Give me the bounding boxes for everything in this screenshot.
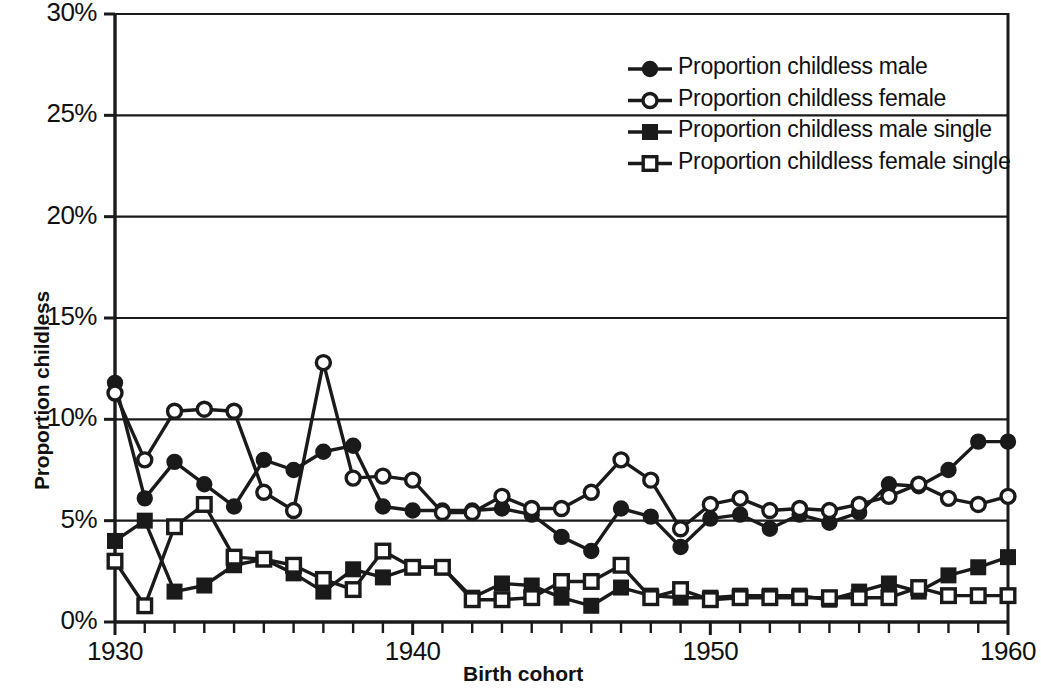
marker-open-circle — [971, 497, 985, 511]
marker-open-circle — [108, 386, 122, 400]
marker-open-square — [287, 558, 301, 572]
marker-open-circle — [882, 489, 896, 503]
marker-open-square — [852, 591, 866, 605]
marker-open-circle — [525, 502, 539, 516]
marker-open-circle — [763, 504, 777, 518]
marker-open-circle — [406, 473, 420, 487]
marker-open-square — [793, 591, 807, 605]
marker-filled-square — [971, 560, 985, 574]
marker-filled-circle — [376, 499, 390, 513]
marker-open-square — [346, 583, 360, 597]
series-lines-group — [115, 363, 1008, 606]
marker-filled-square — [197, 579, 211, 593]
marker-filled-square — [108, 534, 122, 548]
marker-filled-circle — [197, 477, 211, 491]
marker-open-circle — [495, 489, 509, 503]
marker-filled-circle — [614, 501, 628, 515]
marker-open-circle — [1001, 489, 1015, 503]
marker-open-circle — [197, 402, 211, 416]
marker-open-square — [644, 591, 658, 605]
marker-open-square — [704, 593, 718, 607]
marker-filled-circle — [644, 509, 658, 523]
marker-open-circle — [674, 522, 688, 536]
marker-filled-square — [495, 576, 509, 590]
marker-open-square — [465, 593, 479, 607]
y-axis-title: Proportion childless — [30, 291, 54, 490]
marker-filled-circle — [316, 445, 330, 459]
series-markers-1 — [108, 356, 1015, 536]
marker-filled-circle — [1001, 434, 1015, 448]
marker-filled-square — [138, 514, 152, 528]
marker-filled-square — [346, 562, 360, 576]
marker-filled-square — [1001, 550, 1015, 564]
marker-filled-circle — [167, 455, 181, 469]
marker-open-square — [971, 589, 985, 603]
marker-filled-square — [168, 585, 182, 599]
marker-filled-circle — [763, 522, 777, 536]
marker-open-circle — [168, 404, 182, 418]
marker-filled-circle — [673, 540, 687, 554]
marker-open-square — [584, 575, 598, 589]
marker-filled-circle — [405, 503, 419, 517]
marker-filled-circle — [971, 434, 985, 448]
marker-open-circle — [435, 506, 449, 520]
marker-open-square — [555, 575, 569, 589]
marker-filled-circle — [138, 491, 152, 505]
marker-filled-square — [882, 576, 896, 590]
y-axis-tick-label: 25% — [0, 98, 97, 129]
marker-filled-circle — [584, 544, 598, 558]
marker-open-circle — [793, 502, 807, 516]
legend-label-1: Proportion childless female — [678, 85, 946, 112]
marker-open-square — [674, 583, 688, 597]
legend-label-3: Proportion childless female single — [678, 148, 1010, 175]
marker-filled-circle — [733, 507, 747, 521]
marker-open-square — [912, 581, 926, 595]
marker-open-square — [108, 554, 122, 568]
marker-open-square — [614, 558, 628, 572]
marker-open-square — [942, 589, 956, 603]
marker-open-square — [823, 591, 837, 605]
marker-open-circle — [316, 356, 330, 370]
x-axis-tick-label: 1960 — [974, 636, 1041, 667]
marker-filled-circle — [227, 499, 241, 513]
marker-open-square — [643, 157, 657, 171]
marker-open-square — [733, 591, 747, 605]
y-axis-tick-label: 20% — [0, 200, 97, 231]
marker-open-square — [257, 552, 271, 566]
marker-open-square — [436, 560, 450, 574]
marker-open-square — [227, 550, 241, 564]
marker-open-square — [168, 520, 182, 534]
marker-open-circle — [644, 473, 658, 487]
marker-open-square — [138, 599, 152, 613]
marker-filled-square — [614, 581, 628, 595]
marker-open-square — [1001, 589, 1015, 603]
y-axis-tick-label: 30% — [0, 0, 97, 28]
marker-open-circle — [822, 504, 836, 518]
marker-open-square — [525, 591, 539, 605]
marker-filled-circle — [346, 438, 360, 452]
series-markers-group — [108, 356, 1015, 613]
marker-open-circle — [138, 453, 152, 467]
x-axis-tick-label: 1950 — [676, 636, 744, 667]
marker-filled-square — [376, 570, 390, 584]
series-line-0 — [115, 383, 1008, 551]
marker-filled-circle — [941, 463, 955, 477]
y-axis-tick-label: 5% — [0, 504, 97, 535]
marker-open-circle — [912, 477, 926, 491]
legend-label-2: Proportion childless male single — [678, 116, 992, 143]
marker-open-circle — [584, 485, 598, 499]
marker-open-circle — [376, 469, 390, 483]
marker-filled-circle — [554, 530, 568, 544]
marker-open-circle — [733, 491, 747, 505]
marker-open-circle — [257, 485, 271, 499]
marker-open-circle — [852, 497, 866, 511]
marker-open-square — [406, 560, 420, 574]
marker-open-circle — [287, 504, 301, 518]
marker-open-circle — [643, 94, 657, 108]
marker-open-circle — [346, 471, 360, 485]
marker-open-circle — [941, 491, 955, 505]
marker-filled-square — [941, 568, 955, 582]
marker-open-square — [882, 591, 896, 605]
marker-filled-square — [584, 599, 598, 613]
marker-open-circle — [555, 502, 569, 516]
